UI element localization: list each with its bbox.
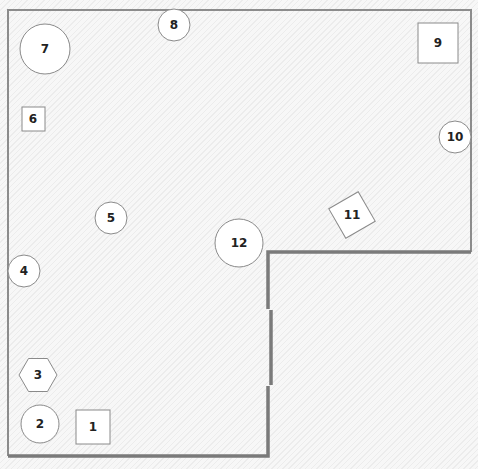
item-8[interactable]: 8 [158, 9, 190, 41]
item-label: 8 [170, 18, 178, 32]
item-label: 2 [36, 417, 44, 431]
item-12[interactable]: 12 [215, 219, 263, 267]
item-3[interactable]: 3 [19, 359, 57, 392]
item-label: 3 [34, 368, 42, 382]
item-9[interactable]: 9 [418, 23, 458, 63]
item-6[interactable]: 6 [22, 107, 45, 131]
item-label: 11 [344, 208, 361, 222]
item-label: 1 [89, 420, 97, 434]
item-7[interactable]: 7 [20, 24, 70, 74]
item-4[interactable]: 4 [8, 255, 40, 287]
item-11[interactable]: 11 [329, 192, 375, 238]
floorplan-canvas: 1 2 3 4 5 6 7 8 [0, 0, 478, 469]
item-label: 9 [434, 36, 442, 50]
item-1[interactable]: 1 [76, 410, 110, 444]
item-label: 5 [107, 211, 115, 225]
item-5[interactable]: 5 [95, 202, 127, 234]
item-label: 12 [231, 236, 248, 250]
item-label: 4 [20, 264, 28, 278]
item-label: 7 [41, 42, 49, 56]
item-label: 10 [447, 130, 464, 144]
item-2[interactable]: 2 [21, 405, 59, 443]
floorplan-svg: 1 2 3 4 5 6 7 8 [0, 0, 478, 469]
item-10[interactable]: 10 [439, 121, 471, 153]
item-label: 6 [29, 112, 37, 126]
wall-step [268, 252, 471, 309]
